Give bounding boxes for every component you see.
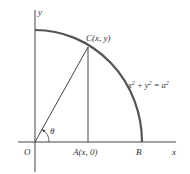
angle-theta-label: θ	[50, 126, 55, 136]
equation-equals-a: = a	[152, 80, 166, 90]
radius-oc	[35, 47, 88, 142]
point-c-label: C(x, y)	[86, 33, 111, 43]
equation-plus-y: + y	[135, 80, 149, 90]
x-axis-label: x	[171, 147, 176, 157]
equation-exp-3: 2	[166, 80, 169, 86]
quarter-circle-diagram: y x O C(x, y) A(x, 0) B θ x2 + y2 = a2	[0, 0, 190, 174]
origin-label: O	[24, 147, 31, 157]
point-a-label: A(x, 0)	[72, 147, 98, 157]
point-b-label: B	[136, 147, 142, 157]
circle-equation: x2 + y2 = a2	[127, 80, 169, 91]
y-axis-label: y	[37, 7, 42, 17]
